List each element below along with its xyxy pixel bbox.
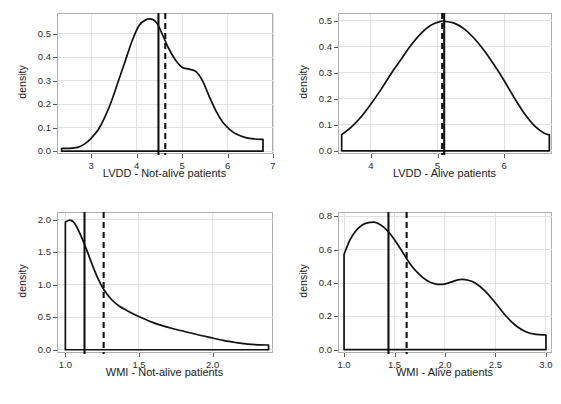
x-tick-mark xyxy=(344,353,345,357)
y-tick-mark xyxy=(53,252,57,253)
x-tick-mark xyxy=(445,353,446,357)
density-curve-lvdd-alive xyxy=(342,21,550,151)
density-curve-lvdd-not-alive xyxy=(62,19,263,151)
plot-area-wmi-alive xyxy=(339,213,552,353)
x-tick-mark xyxy=(504,154,505,158)
x-tick-mark xyxy=(137,154,138,158)
x-tick-mark xyxy=(182,154,183,158)
y-tick-mark xyxy=(53,350,57,351)
y-tick-mark xyxy=(334,350,338,351)
y-tick-mark xyxy=(53,81,57,82)
y-tick-mark xyxy=(53,220,57,221)
x-axis-label: LVDD - Not-alive patients xyxy=(57,167,272,179)
y-tick-mark xyxy=(53,104,57,105)
y-tick-label: 0.1 xyxy=(23,122,51,133)
y-tick-mark xyxy=(334,73,338,74)
plot-area-wmi-not-alive xyxy=(58,213,273,353)
x-tick-mark xyxy=(91,154,92,158)
y-tick-label: 2.0 xyxy=(23,214,51,225)
x-axis-label: WMI - Alive patients xyxy=(338,366,551,378)
x-tick-mark xyxy=(438,154,439,158)
y-tick-mark xyxy=(53,57,57,58)
figure-canvas: 0.00.10.20.30.40.534567LVDD - Not-alive … xyxy=(0,0,561,404)
x-tick-mark xyxy=(495,353,496,357)
x-tick-mark xyxy=(546,353,547,357)
x-tick-mark xyxy=(213,353,214,357)
y-axis-label: density xyxy=(297,241,309,321)
y-tick-mark xyxy=(334,21,338,22)
y-axis-label: density xyxy=(16,241,28,321)
y-tick-mark xyxy=(334,250,338,251)
y-tick-mark xyxy=(334,125,338,126)
y-tick-label: 0.0 xyxy=(23,344,51,355)
plot-area-lvdd-not-alive xyxy=(58,14,273,154)
x-tick-mark xyxy=(273,154,274,158)
y-tick-mark xyxy=(334,47,338,48)
y-axis-label: density xyxy=(297,42,309,122)
y-tick-mark xyxy=(334,316,338,317)
y-tick-mark xyxy=(53,34,57,35)
y-tick-label: 0.0 xyxy=(304,145,332,156)
y-tick-mark xyxy=(53,128,57,129)
y-tick-mark xyxy=(53,317,57,318)
plot-area-lvdd-alive xyxy=(339,14,552,154)
x-tick-mark xyxy=(65,353,66,357)
x-tick-mark xyxy=(395,353,396,357)
y-tick-label: 0.0 xyxy=(23,145,51,156)
y-tick-mark xyxy=(334,99,338,100)
y-tick-label: 0.0 xyxy=(304,344,332,355)
y-tick-mark xyxy=(334,151,338,152)
y-tick-mark xyxy=(53,285,57,286)
y-tick-mark xyxy=(334,216,338,217)
y-tick-label: 0.5 xyxy=(304,15,332,26)
x-tick-mark xyxy=(228,154,229,158)
y-axis-label: density xyxy=(16,42,28,122)
x-tick-mark xyxy=(139,353,140,357)
x-axis-label: LVDD - Alive patients xyxy=(338,167,551,179)
y-tick-label: 0.5 xyxy=(23,28,51,39)
y-tick-mark xyxy=(53,151,57,152)
x-tick-mark xyxy=(371,154,372,158)
y-tick-mark xyxy=(334,283,338,284)
x-axis-label: WMI - Not-alive patients xyxy=(57,366,272,378)
y-tick-label: 0.8 xyxy=(304,210,332,221)
